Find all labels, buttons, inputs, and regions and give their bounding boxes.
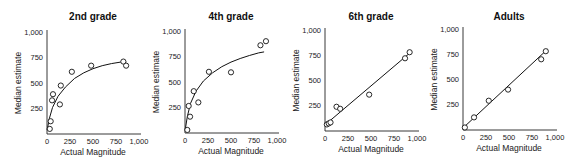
data-point — [206, 69, 211, 74]
y-tick-label: 500 — [308, 76, 321, 85]
x-tick-label: 250 — [480, 133, 493, 142]
data-point — [228, 70, 233, 75]
data-point — [48, 119, 53, 124]
y-tick-label: 250 — [168, 103, 181, 112]
data-point — [124, 63, 129, 68]
y-axis-label: Median estimate — [291, 49, 301, 112]
chart-4th-grade: 4th grade2505007501,00002505007501,000Ac… — [140, 0, 285, 161]
y-tick-label: 250 — [30, 104, 43, 113]
data-point — [57, 102, 62, 107]
x-axis-label: Actual Magnitude — [338, 144, 404, 154]
x-tick-label: 1,000 — [268, 136, 287, 145]
y-tick-label: 1,000 — [440, 25, 459, 34]
y-tick-label: 750 — [308, 51, 321, 60]
x-tick-label: 750 — [110, 137, 123, 146]
x-tick-label: 750 — [248, 136, 261, 145]
data-point — [196, 100, 201, 105]
x-axis-label: Actual Magnitude — [60, 147, 126, 157]
data-point — [89, 63, 94, 68]
data-point — [47, 126, 52, 131]
x-axis-label: Actual Magnitude — [476, 143, 542, 153]
data-point — [462, 125, 467, 130]
y-axis-label: Median estimate — [13, 52, 23, 115]
chart-title: Adults — [493, 11, 525, 22]
data-point — [543, 49, 548, 54]
x-tick-label: 0 — [461, 133, 465, 142]
data-point — [191, 89, 196, 94]
y-tick-label: 250 — [446, 100, 459, 109]
y-axis-label: Median estimate — [429, 48, 439, 111]
data-point — [471, 115, 476, 120]
data-point — [185, 127, 190, 132]
x-tick-label: 0 — [45, 137, 49, 146]
figure: 2nd grade2505007501,00002505007501,000Ac… — [0, 0, 583, 161]
panel-adults: Adults2505007501,00002505007501,000Actua… — [433, 0, 583, 161]
x-tick-label: 500 — [87, 137, 100, 146]
chart-6th-grade: 6th grade2505007501,00002505007501,000Ac… — [290, 0, 435, 161]
chart-2nd-grade: 2nd grade2505007501,00002505007501,000Ac… — [0, 0, 145, 161]
data-point — [58, 83, 63, 88]
data-point — [407, 50, 412, 55]
y-tick-label: 250 — [308, 101, 321, 110]
x-tick-label: 500 — [503, 133, 516, 142]
data-point — [402, 56, 407, 61]
data-point — [539, 57, 544, 62]
x-axis-label: Actual Magnitude — [198, 146, 264, 156]
panel-4th-grade: 4th grade2505007501,00002505007501,000Ac… — [140, 0, 285, 161]
y-tick-label: 500 — [30, 79, 43, 88]
data-point — [258, 43, 263, 48]
y-tick-label: 1,000 — [302, 26, 321, 35]
chart-title: 4th grade — [208, 11, 253, 22]
y-tick-label: 750 — [168, 52, 181, 61]
data-point — [49, 98, 54, 103]
x-tick-label: 0 — [323, 134, 327, 143]
chart-title: 6th grade — [348, 11, 393, 22]
y-tick-label: 500 — [168, 78, 181, 87]
x-tick-label: 0 — [183, 136, 187, 145]
x-tick-label: 1,000 — [408, 134, 427, 143]
y-tick-label: 750 — [30, 53, 43, 62]
y-tick-label: 750 — [446, 50, 459, 59]
y-tick-label: 1,000 — [24, 28, 43, 37]
chart-adults: Adults2505007501,00002505007501,000Actua… — [433, 0, 583, 161]
chart-title: 2nd grade — [69, 11, 117, 22]
fit-line — [325, 53, 410, 125]
data-point — [338, 106, 343, 111]
x-tick-label: 250 — [342, 134, 355, 143]
x-tick-label: 250 — [202, 136, 215, 145]
data-point — [263, 39, 268, 44]
y-tick-label: 500 — [446, 75, 459, 84]
y-axis-label: Median estimate — [151, 51, 161, 114]
data-point — [367, 92, 372, 97]
x-tick-label: 250 — [64, 137, 77, 146]
x-tick-label: 500 — [225, 136, 238, 145]
data-point — [187, 114, 192, 119]
panel-2nd-grade: 2nd grade2505007501,00002505007501,000Ac… — [0, 0, 145, 161]
data-point — [505, 87, 510, 92]
x-tick-label: 1,000 — [546, 133, 565, 142]
data-point — [69, 69, 74, 74]
x-tick-label: 500 — [365, 134, 378, 143]
data-point — [50, 92, 55, 97]
x-tick-label: 750 — [388, 134, 401, 143]
fit-line — [185, 52, 264, 130]
data-point — [186, 103, 191, 108]
fit-line — [47, 62, 126, 130]
data-point — [328, 120, 333, 125]
x-tick-label: 750 — [526, 133, 539, 142]
y-tick-label: 1,000 — [162, 27, 181, 36]
data-point — [486, 98, 491, 103]
panel-6th-grade: 6th grade2505007501,00002505007501,000Ac… — [290, 0, 435, 161]
